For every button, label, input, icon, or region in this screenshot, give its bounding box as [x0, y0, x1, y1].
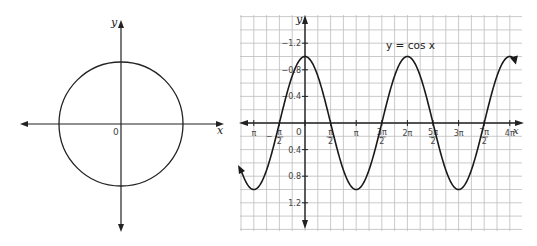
right-x-arrow-left-icon — [239, 120, 248, 126]
svg-text:0.4: 0.4 — [288, 146, 301, 155]
svg-text:2: 2 — [277, 137, 282, 146]
curve-arrow-left-icon — [238, 165, 245, 174]
svg-text:2: 2 — [482, 137, 487, 146]
left-origin-label: 0 — [113, 127, 119, 137]
right-y-label: y — [295, 13, 303, 26]
left-x-arrow-left-icon — [20, 121, 28, 127]
svg-text:π: π — [354, 129, 359, 138]
right-x-label: x — [513, 125, 519, 136]
left-y-arrow-down-icon — [118, 224, 124, 232]
right-cosine-figure: 1.20.80.4−0.4−0.8−1.2ππ2−π2π3π22π5π23π7π… — [238, 13, 524, 231]
svg-text:−1.2: −1.2 — [282, 39, 301, 48]
svg-text:2: 2 — [328, 137, 333, 146]
svg-text:0.8: 0.8 — [288, 172, 301, 181]
figure-canvas: x y 0 1.20.80.4−0.4−0.8−1.2ππ2−π2π3π22π5… — [0, 0, 537, 246]
equation-label: y = cos x — [386, 39, 435, 51]
svg-text:2: 2 — [430, 137, 435, 146]
svg-text:−0.8: −0.8 — [282, 66, 301, 75]
left-y-label: y — [110, 16, 118, 29]
right-y-arrow-down-icon — [302, 220, 308, 229]
right-origin-label: 0 — [296, 127, 302, 137]
svg-text:π: π — [251, 129, 256, 138]
svg-text:2: 2 — [379, 137, 384, 146]
svg-text:2π: 2π — [402, 129, 412, 138]
svg-text:3π: 3π — [454, 129, 464, 138]
left-x-label: x — [217, 124, 224, 137]
left-y-arrow-up-icon — [118, 20, 124, 28]
left-circle-figure: x y 0 — [20, 16, 224, 232]
svg-text:1.2: 1.2 — [288, 199, 301, 208]
svg-text:−: − — [266, 132, 273, 141]
